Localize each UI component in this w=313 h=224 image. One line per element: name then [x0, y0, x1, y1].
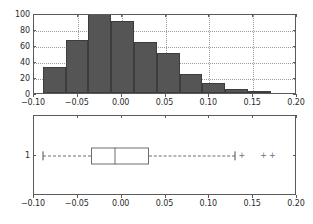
y-axis-tick-right [293, 94, 296, 95]
boxplot-cap-high [234, 151, 235, 160]
x-axis-tick-label: 0.00 [112, 199, 129, 208]
x-axis-tick-top [77, 115, 78, 118]
y-axis-tick-label: 80 [7, 26, 30, 35]
y-axis-tick-label: 100 [7, 10, 30, 19]
histogram-bar [88, 15, 111, 93]
y-axis-tick-label: 0 [7, 90, 30, 99]
x-axis-tick-label: 0.05 [156, 98, 173, 107]
x-axis-tick [208, 94, 209, 97]
x-axis-tick-top [252, 14, 253, 17]
histogram-bar [134, 42, 157, 93]
x-axis-tick-label: 0.00 [112, 98, 129, 107]
y-axis-tick [33, 94, 36, 95]
y-axis-tick-label: 1 [7, 151, 30, 160]
boxplot-outlier-marker: + [269, 152, 276, 160]
x-axis-tick [33, 195, 34, 198]
x-axis-tick-top [121, 14, 122, 17]
histogram-bar [225, 89, 248, 93]
x-axis-tick-label: −0.10 [21, 199, 45, 208]
y-axis-tick-label: 20 [7, 74, 30, 83]
x-axis-tick [77, 94, 78, 97]
x-axis-tick-label: −0.10 [21, 98, 45, 107]
x-axis-tick [165, 195, 166, 198]
boxplot-outlier-marker: + [238, 152, 245, 160]
y-axis-tick [33, 30, 36, 31]
x-axis-tick [165, 94, 166, 97]
histogram-bar [43, 67, 66, 93]
y-axis-tick-right [293, 46, 296, 47]
histogram-bar [180, 74, 203, 93]
x-axis-tick-label: 0.10 [200, 98, 217, 107]
boxplot-box [91, 148, 149, 165]
boxplot-plot-area: +++ [34, 116, 295, 194]
y-axis-tick-right [293, 78, 296, 79]
boxplot-cap-low [42, 151, 43, 160]
x-axis-tick-label: 0.10 [200, 199, 217, 208]
histogram-bar [111, 21, 134, 93]
y-axis-tick [33, 14, 36, 15]
x-axis-tick-label: 0.20 [287, 199, 304, 208]
x-axis-tick [252, 195, 253, 198]
x-axis-tick [252, 94, 253, 97]
boxplot-axes: +++ [33, 115, 296, 195]
y-axis-tick-label: 60 [7, 42, 30, 51]
y-axis-tick-right [293, 155, 296, 156]
histogram-bar [66, 40, 89, 93]
grid-line-vertical [253, 15, 254, 93]
boxplot-whisker-left [43, 156, 91, 157]
y-axis-tick [33, 46, 36, 47]
y-axis-tick [33, 155, 36, 156]
x-axis-tick-top [208, 14, 209, 17]
x-axis-tick-top [165, 14, 166, 17]
y-axis-tick [33, 62, 36, 63]
y-axis-tick-right [293, 14, 296, 15]
histogram-bar [202, 83, 225, 93]
histogram-plot-area [34, 15, 295, 93]
x-axis-tick-label: 0.20 [287, 98, 304, 107]
x-axis-tick-label: −0.05 [65, 199, 89, 208]
matplotlib-figure: −0.10−0.050.000.050.100.150.200204060801… [0, 0, 313, 224]
boxplot-whisker-right [149, 156, 235, 157]
y-axis-tick [33, 78, 36, 79]
x-axis-tick-top [33, 115, 34, 118]
x-axis-tick-top [296, 115, 297, 118]
boxplot-median-line [114, 148, 115, 165]
histogram-bar [248, 91, 271, 93]
x-axis-tick [121, 94, 122, 97]
x-axis-tick-top [121, 115, 122, 118]
x-axis-tick [77, 195, 78, 198]
grid-line-horizontal [34, 31, 295, 32]
x-axis-tick [208, 195, 209, 198]
y-axis-tick-right [293, 62, 296, 63]
y-axis-tick-right [293, 30, 296, 31]
x-axis-tick-top [252, 115, 253, 118]
grid-line-vertical [209, 15, 210, 93]
histogram-axes [33, 14, 296, 94]
x-axis-tick-label: 0.15 [243, 98, 260, 107]
x-axis-tick [296, 195, 297, 198]
x-axis-tick-top [77, 14, 78, 17]
x-axis-tick [296, 94, 297, 97]
x-axis-tick-label: −0.05 [65, 98, 89, 107]
boxplot-outlier-marker: + [260, 152, 267, 160]
x-axis-tick-top [208, 115, 209, 118]
x-axis-tick [121, 195, 122, 198]
x-axis-tick-label: 0.05 [156, 199, 173, 208]
x-axis-tick-top [165, 115, 166, 118]
y-axis-tick-label: 40 [7, 58, 30, 67]
histogram-bar [157, 53, 180, 93]
x-axis-tick-label: 0.15 [243, 199, 260, 208]
x-axis-tick-top [296, 14, 297, 17]
